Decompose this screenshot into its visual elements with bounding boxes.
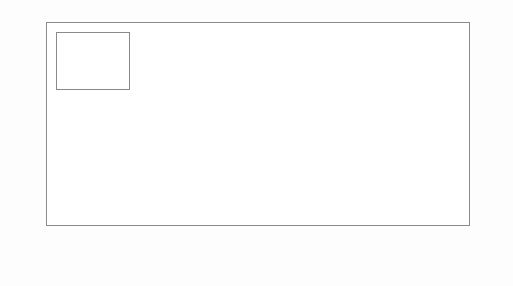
region-legend <box>56 32 130 90</box>
chart-figure <box>0 0 513 286</box>
population-size-legend <box>368 168 472 224</box>
